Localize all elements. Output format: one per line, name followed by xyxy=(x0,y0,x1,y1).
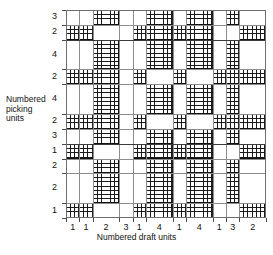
draft-cell-empty xyxy=(213,159,226,174)
draft-cell-filled xyxy=(66,69,79,84)
draft-cell-empty xyxy=(213,84,226,114)
draft-cell-empty xyxy=(226,203,239,218)
draft-cell-empty xyxy=(119,144,132,159)
draft-cell-filled xyxy=(66,25,79,40)
y-tick xyxy=(62,144,66,145)
draft-cell-empty xyxy=(119,129,132,144)
draft-cell-empty xyxy=(79,40,92,70)
draft-cell-empty xyxy=(173,10,186,25)
draft-cell-empty xyxy=(119,84,132,114)
draft-cell-filled xyxy=(239,203,266,218)
draft-cell-empty xyxy=(213,173,226,203)
draft-cell-empty xyxy=(133,129,146,144)
weaving-draft-figure: Numbered picking units 11231414132 32424… xyxy=(0,0,273,255)
x-tick-label: 1 xyxy=(66,222,80,232)
x-tick-label: 1 xyxy=(132,222,146,232)
grid-line-horizontal xyxy=(66,129,266,130)
draft-cell-filled xyxy=(93,159,120,174)
x-tick-label: 2 xyxy=(246,222,260,232)
draft-cell-empty xyxy=(133,84,146,114)
grid-line-horizontal xyxy=(66,173,266,174)
draft-cell-empty xyxy=(213,25,226,40)
y-tick xyxy=(62,114,66,115)
draft-cell-filled xyxy=(239,25,266,40)
draft-cell-filled xyxy=(146,129,173,144)
draft-cell-empty xyxy=(186,114,213,129)
draft-cell-filled xyxy=(93,69,120,84)
draft-cell-empty xyxy=(93,144,120,159)
y-tick-label: 2 xyxy=(45,71,57,82)
y-tick xyxy=(62,69,66,70)
draft-cell-empty xyxy=(66,40,79,70)
draft-cell-filled xyxy=(93,10,120,25)
draft-cell-empty xyxy=(93,25,120,40)
y-tick-label: 2 xyxy=(45,115,57,126)
draft-cell-empty xyxy=(146,69,173,84)
y-tick xyxy=(62,129,66,130)
draft-cell-filled xyxy=(213,69,226,84)
draft-cell-empty xyxy=(79,159,92,174)
grid-line-horizontal xyxy=(66,144,266,145)
draft-cell-filled xyxy=(79,144,92,159)
draft-cell-filled xyxy=(79,114,92,129)
draft-cell-empty xyxy=(239,10,266,25)
draft-cell-empty xyxy=(213,203,226,218)
y-tick-label: 1 xyxy=(45,145,57,156)
draft-cell-empty xyxy=(173,40,186,70)
draft-cell-filled xyxy=(226,40,239,70)
draft-cell-filled xyxy=(66,144,79,159)
draft-cell-filled xyxy=(146,40,173,70)
draft-cell-filled xyxy=(186,144,213,159)
draft-cell-filled xyxy=(226,10,239,25)
draft-cell-filled xyxy=(173,25,186,40)
draft-cell-filled xyxy=(226,114,239,129)
draft-cell-filled xyxy=(93,114,120,129)
draft-cell-empty xyxy=(133,40,146,70)
draft-cell-empty xyxy=(239,84,266,114)
y-tick-label: 1 xyxy=(45,205,57,216)
x-tick-label: 2 xyxy=(99,222,113,232)
draft-cell-empty xyxy=(186,69,213,84)
draft-cell-filled xyxy=(226,84,239,114)
y-tick xyxy=(62,203,66,204)
draft-cell-filled xyxy=(186,84,213,114)
draft-cell-empty xyxy=(66,84,79,114)
draft-grid: 11231414132 32424231221 xyxy=(66,10,266,218)
draft-cell-empty xyxy=(239,173,266,203)
draft-cell-filled xyxy=(146,173,173,203)
draft-cell-filled xyxy=(186,129,213,144)
draft-cell-filled xyxy=(239,144,266,159)
draft-cell-filled xyxy=(173,144,186,159)
x-axis-caption: Numbered draft units xyxy=(0,232,273,242)
y-tick xyxy=(62,84,66,85)
x-tick-label: 3 xyxy=(119,222,133,232)
draft-cell-empty xyxy=(66,10,79,25)
draft-cell-empty xyxy=(173,173,186,203)
grid-line-horizontal xyxy=(66,69,266,70)
draft-cell-filled xyxy=(93,84,120,114)
draft-cell-empty xyxy=(213,129,226,144)
x-tick-label: 1 xyxy=(172,222,186,232)
draft-cell-empty xyxy=(79,10,92,25)
draft-cell-filled xyxy=(66,203,79,218)
draft-cell-filled xyxy=(133,69,146,84)
draft-cell-empty xyxy=(66,129,79,144)
draft-cell-empty xyxy=(119,40,132,70)
draft-cell-filled xyxy=(93,173,120,203)
draft-cell-empty xyxy=(79,173,92,203)
draft-cell-empty xyxy=(119,159,132,174)
draft-cell-filled xyxy=(226,69,239,84)
y-tick xyxy=(62,25,66,26)
draft-cell-empty xyxy=(66,159,79,174)
draft-cell-empty xyxy=(133,10,146,25)
draft-cell-filled xyxy=(186,159,213,174)
draft-cell-empty xyxy=(239,159,266,174)
grid-line-horizontal xyxy=(66,40,266,41)
x-tick-label: 4 xyxy=(152,222,166,232)
x-tick xyxy=(266,218,267,222)
draft-cell-filled xyxy=(133,25,146,40)
draft-cell-empty xyxy=(119,203,132,218)
draft-cell-filled xyxy=(79,203,92,218)
draft-cell-empty xyxy=(173,84,186,114)
draft-cell-empty xyxy=(146,114,173,129)
